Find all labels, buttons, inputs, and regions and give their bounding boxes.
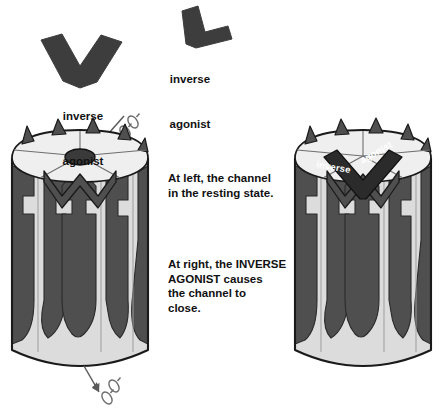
molecule-label-left-line1: inverse: [38, 109, 128, 124]
channel-right: [295, 118, 431, 366]
caption-resting-state: At left, the channel in the resting stat…: [168, 171, 288, 200]
molecule-label-left: inverse agonist: [38, 80, 128, 198]
figure-canvas: inverse agonist inverse agonist At left,…: [0, 0, 443, 416]
ion-bottom-2: [100, 390, 114, 406]
caption-closing-state: At right, the INVERSE AGONIST causes the…: [168, 257, 292, 316]
inverse-agonist-molecule-right: [182, 6, 232, 48]
molecule-label-left-line2: agonist: [38, 154, 128, 169]
molecule-label-right: inverse agonist: [145, 43, 235, 161]
molecule-label-right-line2: agonist: [145, 117, 235, 132]
arrow-exit-icon: [84, 366, 100, 392]
ion-bottom-1: [107, 378, 121, 394]
molecule-label-right-line1: inverse: [145, 72, 235, 87]
